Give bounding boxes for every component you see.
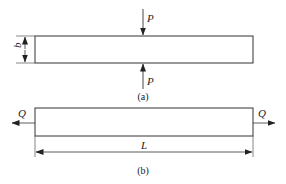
force-p-bottom: P	[143, 64, 154, 89]
force-q-right: Q	[253, 107, 275, 123]
figure-a: b P P (a)	[11, 9, 253, 103]
force-q-left: Q	[12, 107, 35, 123]
force-p-top: P	[143, 9, 154, 35]
beam-b	[35, 108, 253, 136]
dimension-l-label: L	[140, 139, 147, 151]
dimension-b: b	[11, 36, 35, 63]
beam-a	[35, 36, 253, 63]
dimension-b-label: b	[11, 42, 23, 48]
force-p-top-label: P	[146, 12, 154, 24]
caption-a: (a)	[137, 91, 148, 103]
dimension-l: L	[35, 136, 253, 157]
force-q-right-label: Q	[258, 107, 266, 119]
force-p-bottom-label: P	[146, 75, 154, 87]
force-q-left-label: Q	[18, 107, 26, 119]
figure-b: Q Q L (b)	[12, 107, 275, 177]
diagram-canvas: b P P (a) Q Q	[0, 0, 286, 184]
caption-b: (b)	[137, 165, 149, 177]
